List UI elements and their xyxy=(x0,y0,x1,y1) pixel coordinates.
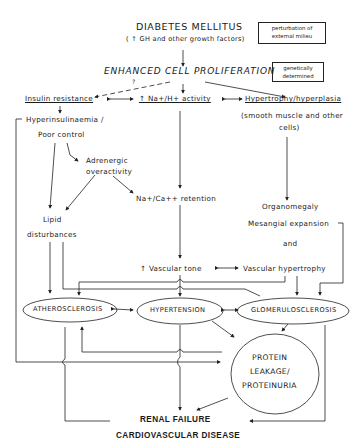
legend-genetically-determined: genetically determined xyxy=(272,62,324,82)
cardiovascular-disease-outcome: CARDIOVASCULAR DISEASE xyxy=(116,432,240,440)
poor-control-node: Poor control xyxy=(38,131,85,138)
insulin-resistance-node: Insulin resistance xyxy=(25,95,93,102)
mesangial-expansion-node: Mesangial expansion xyxy=(248,220,329,227)
atherosclerosis-node: ATHEROSCLEROSIS xyxy=(33,306,103,313)
organomegaly-node: Organomegaly xyxy=(262,203,319,210)
glomerulosclerosis-node: GLOMERULOSCLEROSIS xyxy=(251,307,337,314)
enhanced-cell-proliferation: ENHANCED CELL PROLIFERATION xyxy=(104,67,275,76)
hypertrophy-hyperplasia-node: Hypertrophy/hyperplasia xyxy=(245,95,341,102)
renal-failure-outcome: RENAL FAILURE xyxy=(140,416,211,424)
protein-leakage-line2: LEAKAGE/ xyxy=(250,368,290,376)
lipid-node-2: disturbances xyxy=(27,231,77,238)
na-ca-retention-node: Na+/Ca++ retention xyxy=(136,195,216,202)
hypertension-node: HYPERTENSION xyxy=(150,307,205,314)
growth-factors-subtitle: ( ↑ GH and other growth factors) xyxy=(126,36,245,43)
hypertrophy-note: (smooth muscle and other xyxy=(241,112,343,119)
protein-leakage-line1: PROTEIN xyxy=(252,354,287,362)
and-connector: and xyxy=(283,240,297,247)
protein-leakage-line3: PROTEINURIA xyxy=(242,382,297,390)
na-h-activity-node: ↑ Na+/H+ activity xyxy=(139,95,211,102)
hyperinsulinaemia-node: Hyperinsulinaemia / xyxy=(26,116,104,123)
adrenergic-node: Adrenergic xyxy=(86,157,128,164)
diabetes-mellitus-title: DIABETES MELLITUS xyxy=(136,22,243,32)
legend-external-milieu: perturbation of external milieu xyxy=(258,22,326,44)
vascular-hypertrophy-node: Vascular hypertrophy xyxy=(243,265,326,272)
lipid-node: Lipid xyxy=(43,216,62,223)
question-mark: ? xyxy=(132,79,136,85)
adrenergic-node-2: overactivity xyxy=(86,168,132,175)
vascular-tone-node: ↑ Vascular tone xyxy=(140,265,202,272)
hypertrophy-note-cells: cells) xyxy=(279,124,300,131)
